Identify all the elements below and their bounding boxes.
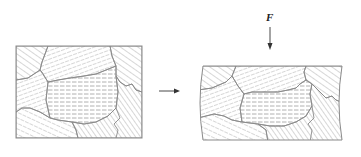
compressed-grains xyxy=(198,66,346,142)
force-arrow xyxy=(268,27,273,50)
diagram-canvas xyxy=(0,0,361,157)
undeformed-grains xyxy=(16,46,142,138)
force-label: F xyxy=(266,11,273,23)
transition-arrow xyxy=(159,89,180,94)
